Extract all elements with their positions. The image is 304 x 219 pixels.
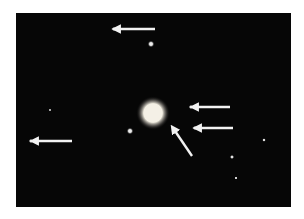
astronomical-photo: [16, 13, 291, 207]
pointer-arrows: [37, 29, 233, 156]
arrow-icon: [175, 131, 192, 156]
marked-satellites: [29, 27, 198, 144]
planet: [136, 96, 170, 130]
satellite: [112, 27, 117, 32]
satellite: [193, 126, 198, 131]
star: [147, 40, 154, 47]
star: [230, 155, 234, 159]
star: [235, 177, 238, 180]
star: [49, 109, 52, 112]
satellite: [29, 139, 34, 144]
planet-disk: [144, 104, 162, 122]
satellite: [189, 105, 194, 110]
star: [262, 138, 266, 142]
satellite: [171, 125, 173, 127]
star-field: [16, 13, 291, 207]
star: [126, 127, 133, 134]
